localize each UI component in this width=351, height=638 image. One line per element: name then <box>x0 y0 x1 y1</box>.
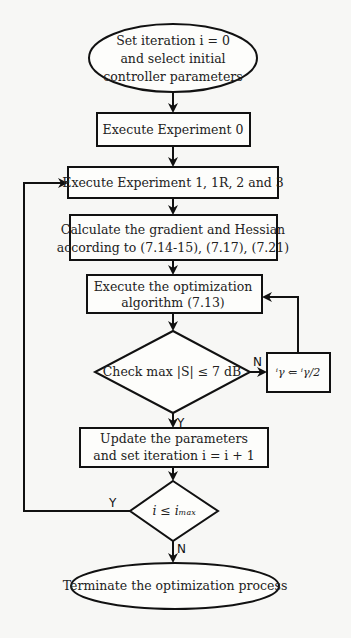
decision-max-s: Check max |S| ≤ 7 dB <box>95 331 250 413</box>
process-optimization: Execute the optimization algorithm (7.13… <box>87 275 262 313</box>
flowchart: N Y Y N Set iteration i = 0 and select i… <box>0 0 351 638</box>
process-update: Update the parameters and set iteration … <box>80 428 268 467</box>
gradient-line-2: according to (7.14-15), (7.17), (7.21) <box>57 240 289 255</box>
start-line-2: and select initial <box>120 51 225 66</box>
process-exp123: Execute Experiment 1, 1R, 2 and 3 <box>62 167 283 198</box>
start-line-3: controller parameters <box>103 69 242 84</box>
exp123-label: Execute Experiment 1, 1R, 2 and 3 <box>62 175 283 190</box>
update-line-2: and set iteration i = i + 1 <box>93 448 255 463</box>
start-line-1: Set iteration i = 0 <box>116 33 230 48</box>
decision-imax-label: i ≤ iₘₐₓ <box>152 503 196 518</box>
optimization-line-2: algorithm (7.13) <box>121 295 224 310</box>
end-label: Terminate the optimization process <box>63 578 288 593</box>
optimization-line-1: Execute the optimization <box>94 279 253 294</box>
process-gamma-halve: ⁱγ ⇐ ⁱγ/2 <box>267 353 330 392</box>
update-line-1: Update the parameters <box>100 431 248 446</box>
edge-label-no: N <box>253 355 262 369</box>
decision-max-s-label: Check max |S| ≤ 7 dB <box>103 364 241 379</box>
decision-imax: i ≤ iₘₐₓ <box>130 481 218 541</box>
edge-label-no-end: N <box>177 542 186 556</box>
process-gradient: Calculate the gradient and Hessian accor… <box>57 215 289 260</box>
process-exp0: Execute Experiment 0 <box>97 113 250 146</box>
start-node: Set iteration i = 0 and select initial c… <box>89 24 257 92</box>
end-node: Terminate the optimization process <box>63 563 288 609</box>
gamma-halve-label: ⁱγ ⇐ ⁱγ/2 <box>276 366 321 379</box>
edge-label-yes-loop: Y <box>108 496 117 510</box>
exp0-label: Execute Experiment 0 <box>103 122 244 137</box>
edge-gamma-to-opt <box>264 297 298 353</box>
gradient-line-1: Calculate the gradient and Hessian <box>61 222 285 237</box>
